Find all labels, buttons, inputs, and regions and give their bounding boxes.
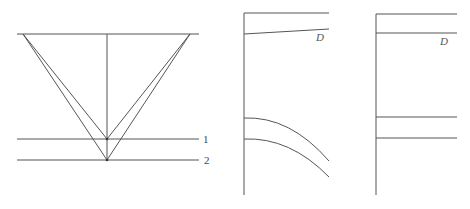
corrected-traveltime-figure: D — [376, 14, 457, 195]
seismic-reflection-diagram: 1 2 D D — [0, 0, 470, 209]
reflector-1-label: 1 — [203, 133, 209, 145]
ray-left-to-reflector-1 — [23, 34, 107, 139]
direct-wave-label: D — [439, 35, 448, 47]
direct-wave-label: D — [315, 31, 324, 43]
uncorrected-traveltime-figure: D — [244, 13, 329, 195]
ray-right-to-reflector-1 — [107, 34, 190, 139]
reflection-point-2 — [106, 159, 109, 162]
ray-left-to-reflector-2 — [23, 34, 107, 160]
ray-geometry-figure: 1 2 — [17, 34, 210, 166]
reflection-point-1 — [106, 138, 109, 141]
hyperbola-reflector-2 — [244, 139, 329, 177]
ray-right-to-reflector-2 — [107, 34, 190, 160]
reflector-2-label: 2 — [204, 154, 210, 166]
